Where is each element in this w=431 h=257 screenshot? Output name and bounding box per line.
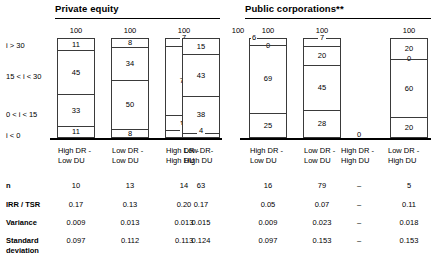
stat-value-stddev-private-1: 0.097	[57, 236, 95, 245]
column-header-public-2-line1: Low DR -	[304, 146, 335, 156]
stat-row-label-standard-deviation-line1: Standard	[6, 236, 39, 246]
bar-column-public-3: 0	[340, 38, 378, 138]
stat-value-n-public-2: 79	[303, 181, 341, 190]
bar-public-1[interactable]: 6 0 69 25	[249, 38, 287, 138]
bar-segment-public-4-3: 20	[391, 117, 427, 137]
panel-title-rule-public	[245, 18, 431, 19]
stat-value-irr-private-2: 0.13	[111, 200, 149, 209]
stat-value-variance-private-1: 0.009	[57, 218, 95, 227]
column-header-public-1-line1: High DR -	[250, 146, 283, 156]
stat-value-n-public-3: –	[340, 181, 378, 190]
stat-value-variance-public-4: 0.018	[390, 218, 428, 227]
bar-segment-private-1-0: 11	[58, 39, 94, 50]
bar-total-private-3: 100	[165, 26, 203, 35]
bar-segment-private-4-0: 15	[183, 39, 219, 54]
baseline-private	[50, 138, 222, 140]
column-header-public-3: High DR - High DU	[341, 146, 374, 166]
stat-row-label-standard-deviation-line2: deviation	[6, 246, 39, 256]
bar-total-public-2: 100	[303, 26, 341, 35]
column-header-public-2-line2: Low DU	[304, 156, 335, 166]
column-header-private-2-line2: Low DU	[112, 156, 143, 166]
bar-segment-private-2-0: 8	[112, 39, 148, 47]
stat-value-variance-public-2: 0.023	[303, 218, 341, 227]
stat-value-stddev-public-1: 0.097	[249, 236, 287, 245]
bar-total-public-1: 100	[249, 26, 287, 35]
stat-value-variance-public-1: 0.009	[249, 218, 287, 227]
bar-segment-public-1-2: 69	[250, 45, 286, 113]
column-header-private-2: Low DR - Low DU	[112, 146, 143, 166]
stat-value-stddev-public-2: 0.153	[303, 236, 341, 245]
column-header-public-4-line2: High DU	[388, 156, 419, 166]
bar-public-2[interactable]: 7 20 45 28	[303, 38, 341, 138]
column-header-private-1-line1: High DR -	[58, 146, 91, 156]
panel-title-rule-private	[55, 18, 220, 19]
bar-segment-private-4-1: 43	[183, 54, 219, 96]
bar-column-public-2: 100 7 20 45 28	[303, 38, 341, 138]
stat-value-n-private-4: 63	[182, 181, 220, 190]
bar-column-private-1: 100 11 45 33 11	[57, 38, 95, 138]
band-label-i-lt-0: i < 0	[6, 131, 20, 140]
bar-column-private-2: 100 8 34 50 8	[111, 38, 149, 138]
column-header-public-1-line2: Low DU	[250, 156, 283, 166]
stat-row-label-irr-tsr: IRR / TSR	[6, 200, 40, 210]
stat-value-stddev-private-2: 0.112	[111, 236, 149, 245]
bar-segment-public-2-0: 7	[304, 39, 340, 46]
stat-value-stddev-private-4: 0.124	[182, 236, 220, 245]
bar-column-public-1: 100 6 0 69 25	[249, 38, 287, 138]
stat-value-irr-public-4: 0.11	[390, 200, 428, 209]
bar-segment-public-4-2: 60	[391, 59, 427, 118]
column-header-public-3-line2: High DU	[341, 156, 374, 166]
bar-segment-private-2-2: 50	[112, 80, 148, 129]
panel-title-private-equity: Private equity	[55, 3, 119, 14]
stat-value-variance-private-2: 0.013	[111, 218, 149, 227]
bar-total-public-4: 100	[390, 26, 428, 35]
bar-segment-private-2-3: 8	[112, 129, 148, 137]
stat-value-variance-private-4: 0.015	[182, 218, 220, 227]
stat-value-irr-public-1: 0.05	[249, 200, 287, 209]
column-header-private-4-line2: High DU	[184, 156, 213, 166]
band-label-15-to-30: 15 < i < 30	[6, 72, 41, 81]
bar-segment-private-4-2: 38	[183, 96, 219, 133]
column-header-public-4: Low DR - High DU	[388, 146, 419, 166]
stat-value-n-public-4: 5	[390, 181, 428, 190]
stat-value-n-public-1: 16	[249, 181, 287, 190]
stat-value-stddev-public-4: 0.153	[390, 236, 428, 245]
column-header-private-4-line1: Low DR-	[184, 146, 213, 156]
column-header-public-4-line1: Low DR -	[388, 146, 419, 156]
stat-value-irr-private-1: 0.17	[57, 200, 95, 209]
column-header-public-1: High DR - Low DU	[250, 146, 283, 166]
bar-public-4[interactable]: 20 0 60 20	[390, 38, 428, 138]
bar-segment-public-1-3: 25	[250, 113, 286, 138]
bar-column-public-4: 100 20 0 60 20	[390, 38, 428, 138]
column-header-public-2: Low DR - Low DU	[304, 146, 335, 166]
bar-segment-public-2-2: 45	[304, 65, 340, 109]
bar-segment-private-1-1: 45	[58, 50, 94, 94]
stat-row-label-variance: Variance	[6, 218, 37, 228]
baseline-public	[240, 138, 431, 140]
bar-private-2[interactable]: 8 34 50 8	[111, 38, 149, 138]
bar-total-private-2: 100	[111, 26, 149, 35]
column-header-private-4: Low DR- High DU	[184, 146, 213, 166]
stat-value-irr-private-4: 0.17	[182, 200, 220, 209]
bar-segment-public-2-3: 28	[304, 110, 340, 137]
bar-segment-private-1-3: 11	[58, 126, 94, 137]
band-label-0-to-15: 0 < i < 15	[6, 110, 37, 119]
column-header-public-3-line1: High DR -	[341, 146, 374, 156]
stat-value-irr-public-2: 0.07	[303, 200, 341, 209]
panel-title-public-corporations: Public corporations**	[245, 3, 344, 14]
bar-segment-public-4-0: 20	[391, 39, 427, 59]
bar-segment-private-2-1: 34	[112, 47, 148, 80]
band-label-i-gt-30: i > 30	[6, 41, 25, 50]
stat-value-n-private-1: 10	[57, 181, 95, 190]
stat-value-stddev-public-3: –	[340, 236, 378, 245]
bar-segment-private-1-2: 33	[58, 94, 94, 126]
column-header-private-1-line2: Low DU	[58, 156, 91, 166]
bar-private-4[interactable]: 15 43 38 4	[182, 38, 220, 138]
column-header-private-2-line1: Low DR -	[112, 146, 143, 156]
bar-segment-private-4-3: 4	[183, 133, 219, 137]
column-header-private-1: High DR - Low DU	[58, 146, 91, 166]
stat-row-label-n: n	[6, 181, 11, 191]
bar-total-private-1: 100	[57, 26, 95, 35]
bar-private-1[interactable]: 11 45 33 11	[57, 38, 95, 138]
stat-value-n-private-2: 13	[111, 181, 149, 190]
